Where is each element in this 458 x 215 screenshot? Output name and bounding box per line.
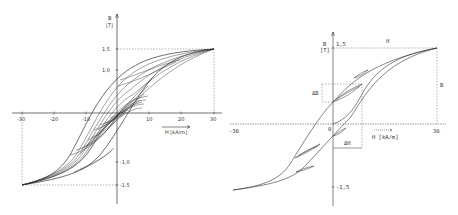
right-delta-h-label: ΔH	[344, 140, 351, 146]
left-y-symbol: B	[108, 15, 112, 21]
right-y-tick-1-5: 1,5	[336, 41, 346, 47]
right-x-tick-0: 0	[328, 126, 331, 132]
right-x-label: H [kA/m]	[372, 134, 399, 140]
left-x-tick-20: 20	[178, 116, 184, 122]
left-y-tick-1-5: 1,5	[102, 46, 110, 52]
diagram-canvas: B [T] 1,5 1,0 -1,0 -1,5 -30 -20 -10 10 2…	[0, 0, 458, 215]
left-y-unit: [T]	[106, 22, 113, 28]
right-labels: B [T] 1,5 -1,5 -30 0 30 H [kA/m] ΔB ΔH H…	[229, 38, 444, 190]
right-major-loop	[233, 48, 437, 190]
left-x-tick-10: 10	[146, 116, 152, 122]
right-b-annotation: B	[440, 82, 444, 88]
left-y-tick-neg1-0: -1,0	[120, 159, 130, 165]
right-x-tick-30: 30	[433, 128, 440, 134]
left-x-tick-30: 30	[210, 116, 216, 122]
right-hysteresis-diagram	[230, 32, 446, 206]
right-h-annotation: H	[386, 38, 389, 44]
left-hysteresis-diagram	[12, 14, 222, 204]
left-x-tick-neg20: -20	[50, 116, 58, 122]
right-y-unit: [T]	[320, 47, 330, 53]
right-minor-loops	[295, 70, 368, 172]
right-y-tick-neg1-5: -1,5	[336, 184, 349, 190]
left-y-tick-neg1-5: -1,5	[120, 182, 130, 188]
right-delta-b-label: ΔB	[312, 90, 319, 96]
left-x-tick-neg30: -30	[17, 116, 25, 122]
left-y-tick-1-0: 1,0	[102, 67, 110, 73]
right-x-tick-neg30: -30	[229, 128, 239, 134]
left-x-label: H [kA/m]	[165, 129, 187, 135]
left-x-tick-neg10: -10	[82, 116, 90, 122]
